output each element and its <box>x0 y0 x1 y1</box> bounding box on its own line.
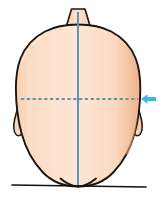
diameter-arrow <box>141 94 156 104</box>
reference-baseline <box>12 185 146 187</box>
skull-diagram-figure: Fetal skull — vertex (top-down) view nos… <box>0 0 160 200</box>
skull-vertex-illustration <box>0 0 160 200</box>
